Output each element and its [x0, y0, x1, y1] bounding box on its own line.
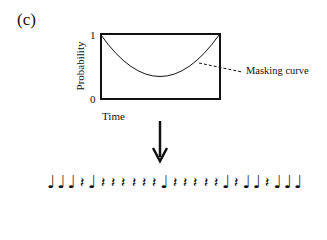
callout-leader — [199, 63, 242, 72]
quarter-rest-icon: 𝄽 — [128, 172, 138, 192]
quarter-rest-icon: 𝄽 — [77, 172, 87, 192]
quarter-note-icon: ♩ — [252, 172, 262, 192]
quarter-note-icon: ♩ — [87, 172, 97, 192]
quarter-rest-icon: 𝄽 — [262, 172, 272, 192]
quarter-note-icon: ♩ — [293, 172, 303, 192]
quarter-note-icon: ♩ — [67, 172, 77, 192]
quarter-rest-icon: 𝄽 — [139, 172, 149, 192]
quarter-note-icon: ♩ — [221, 172, 231, 192]
quarter-note-icon: ♩ — [273, 172, 283, 192]
masking-curve — [101, 35, 219, 77]
quarter-rest-icon: 𝄽 — [190, 172, 200, 192]
quarter-note-icon: ♩ — [242, 172, 252, 192]
quarter-rest-icon: 𝄽 — [170, 172, 180, 192]
quarter-note-icon: ♩ — [283, 172, 293, 192]
quarter-rest-icon: 𝄽 — [97, 172, 107, 192]
quarter-note-icon: ♩ — [159, 172, 169, 192]
quarter-rest-icon: 𝄽 — [149, 172, 159, 192]
quarter-note-icon: ♩ — [56, 172, 66, 192]
quarter-rest-icon: 𝄽 — [200, 172, 210, 192]
quarter-note-icon: ♩ — [46, 172, 56, 192]
quarter-rest-icon: 𝄽 — [118, 172, 128, 192]
quarter-rest-icon: 𝄽 — [180, 172, 190, 192]
quarter-rest-icon: 𝄽 — [211, 172, 221, 192]
quarter-rest-icon: 𝄽 — [231, 172, 241, 192]
quarter-rest-icon: 𝄽 — [108, 172, 118, 192]
note-rest-sequence: ♩♩♩𝄽♩𝄽𝄽𝄽𝄽𝄽𝄽♩𝄽𝄽𝄽𝄽𝄽♩𝄽♩♩𝄽♩♩♩ — [46, 172, 303, 192]
